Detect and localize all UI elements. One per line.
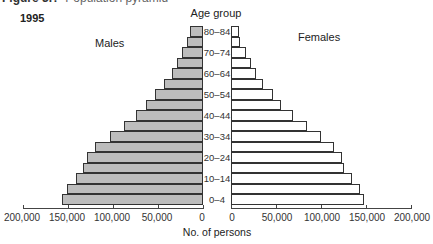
female-bar [231,163,344,174]
male-bar [95,142,203,153]
age-group-label: 70–74 [203,48,231,58]
male-bar [76,173,203,184]
male-bar [67,184,203,195]
age-group-label: 30–34 [203,132,231,142]
female-tick [411,205,412,209]
female-bar [231,79,263,90]
male-bar [87,152,203,163]
female-tick-label: 100,000 [304,212,340,223]
male-tick-label: 200,000 [4,212,40,223]
age-group-heading: Age group [176,7,256,19]
age-group-label: 60–64 [203,69,231,79]
male-bar [190,26,204,37]
female-tick-label: 0 [229,212,235,223]
male-tick-label: 50,000 [142,212,173,223]
male-bar [172,68,203,79]
female-bar [231,173,352,184]
male-bar [177,58,203,69]
male-bar [83,163,203,174]
age-group-label: 50–54 [203,90,231,100]
female-bar [231,26,239,37]
female-bar [231,184,360,195]
males-label: Males [95,37,124,49]
female-tick [276,205,277,209]
male-bar [124,121,203,132]
male-tick [68,205,69,209]
female-tick [231,205,232,209]
male-bar [182,47,203,58]
x-axis-label: No. of persons [167,226,267,238]
male-tick [23,205,24,209]
male-bar [62,194,203,205]
male-bar [136,110,203,121]
female-tick-label: 150,000 [349,212,385,223]
female-tick [366,205,367,209]
female-bar [231,121,307,132]
female-bar [231,89,273,100]
male-bar [110,131,203,142]
female-tick [321,205,322,209]
male-bar [187,37,203,48]
male-tick-label: 150,000 [49,212,85,223]
female-tick-label: 50,000 [262,212,293,223]
female-bar [231,131,321,142]
female-bar [231,47,246,58]
male-tick-label: 100,000 [94,212,130,223]
chart-title: 1995 [20,12,44,24]
female-tick-label: 200,000 [394,212,430,223]
female-bar [231,58,251,69]
female-bar [231,152,342,163]
male-tick-label: 0 [199,212,205,223]
male-tick [203,205,204,209]
female-bar [231,110,293,121]
age-group-label: 20–24 [203,153,231,163]
male-tick [113,205,114,209]
male-bar [155,89,203,100]
figure-caption: Figure 3.?Population pyramid [2,0,168,5]
females-label: Females [298,31,340,43]
age-group-label: 40–44 [203,111,231,121]
female-bar [231,100,281,111]
female-bar [231,68,256,79]
age-group-label: 80–84 [203,27,231,37]
male-bar [164,79,203,90]
female-bar [231,194,364,205]
male-bar [146,100,203,111]
female-bar [231,37,240,48]
age-group-label: 0–4 [203,195,231,205]
age-group-label: 10–14 [203,174,231,184]
female-bar [231,142,334,153]
male-tick [158,205,159,209]
